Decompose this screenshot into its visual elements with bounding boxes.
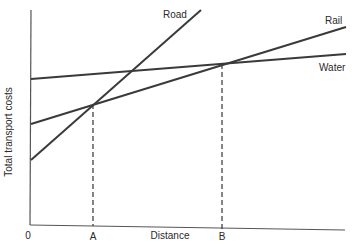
tick-a-label: A xyxy=(90,231,97,242)
x-axis-title: Distance xyxy=(151,230,190,241)
tick-b-label: B xyxy=(219,231,226,242)
water-label: Water xyxy=(319,62,346,73)
y-axis-title: Total transport costs xyxy=(3,87,14,176)
transport-cost-chart: Road Rail Water 0 A B Distance Total tra… xyxy=(0,0,357,247)
road-label: Road xyxy=(163,9,187,20)
y-axis xyxy=(30,10,31,225)
road-line xyxy=(31,10,201,160)
rail-label: Rail xyxy=(325,15,342,26)
origin-label: 0 xyxy=(25,230,31,241)
